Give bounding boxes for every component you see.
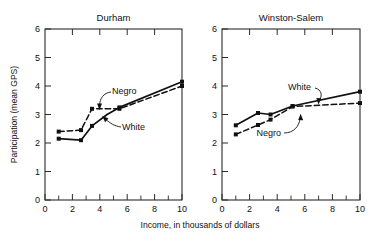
data-point: [117, 105, 121, 109]
two-panel-line-chart: Durham 0 1 2 3 4 5 6: [0, 0, 385, 245]
x-ticklabel: 0: [219, 204, 224, 214]
y-ticks-durham: [45, 29, 51, 200]
data-point: [79, 138, 83, 142]
data-point: [180, 84, 184, 88]
x-ticklabel: 2: [70, 204, 75, 214]
data-point: [234, 123, 238, 127]
y-ticklabel: 3: [212, 110, 217, 120]
x-ticklabel: 4: [275, 204, 280, 214]
data-point: [57, 130, 61, 134]
x-ticklabels-winston-salem: 0 2 4 6 8 10: [219, 204, 365, 214]
x-ticklabel: 2: [247, 204, 252, 214]
y-ticklabel: 5: [35, 53, 40, 63]
series-label-white: White: [288, 82, 311, 92]
data-point: [57, 137, 61, 141]
series-label-negro: Negro: [256, 128, 281, 138]
panel-title-winston-salem: Winston-Salem: [259, 12, 323, 23]
y-ticklabel: 2: [35, 138, 40, 148]
data-point: [180, 80, 184, 84]
x-ticklabel: 0: [42, 204, 47, 214]
x-ticklabel: 4: [97, 204, 102, 214]
x-axis-title: Income, in thousands of dollars: [141, 220, 260, 230]
y-ticklabel: 4: [212, 81, 217, 91]
y-ticklabel: 1: [35, 167, 40, 177]
x-ticks-winston-salem: [222, 29, 360, 200]
data-point: [79, 128, 83, 132]
y-ticklabels-durham: 0 1 2 3 4 5 6: [35, 24, 40, 205]
data-point: [358, 101, 362, 105]
data-point: [234, 132, 238, 136]
series-negro-winston-salem: [234, 101, 362, 136]
annotation-negro-durham: Negro: [97, 86, 136, 110]
panel-title-durham: Durham: [97, 12, 131, 23]
x-ticklabels-durham: 0 2 4 6 8 10: [42, 204, 187, 214]
data-point: [291, 105, 295, 109]
y-ticklabel: 0: [35, 195, 40, 205]
data-point: [256, 123, 260, 127]
y-ticklabels-winston-salem: 0 1 2 3 4 5 6: [212, 24, 217, 205]
data-point: [90, 124, 94, 128]
data-point: [269, 113, 273, 117]
annotation-white-durham: White: [102, 116, 145, 132]
data-point: [90, 107, 94, 111]
x-ticklabel: 6: [125, 204, 130, 214]
x-ticklabel: 8: [152, 204, 157, 214]
y-ticklabel: 6: [212, 24, 217, 34]
x-ticklabel: 10: [355, 204, 365, 214]
panel-durham: Durham 0 1 2 3 4 5 6: [9, 12, 187, 214]
y-ticklabel: 4: [35, 81, 40, 91]
series-label-white: White: [122, 122, 145, 132]
y-ticklabel: 3: [35, 110, 40, 120]
panel-winston-salem: Winston-Salem 0 1 2 3 4 5 6: [212, 12, 365, 214]
series-label-negro: Negro: [112, 86, 137, 96]
x-ticklabel: 8: [330, 204, 335, 214]
x-ticklabel: 10: [177, 204, 187, 214]
y-ticklabel: 2: [212, 138, 217, 148]
y-ticklabel: 5: [212, 53, 217, 63]
figure-container: Durham 0 1 2 3 4 5 6: [0, 0, 385, 245]
series-white-winston-salem: [234, 90, 362, 128]
data-point: [256, 111, 260, 115]
y-axis-title: Participation (mean GPS): [9, 66, 19, 164]
data-point: [269, 118, 273, 122]
y-ticklabel: 1: [212, 167, 217, 177]
plot-frame-durham: [45, 29, 182, 200]
y-ticklabel: 6: [35, 24, 40, 34]
annotation-negro-winston-salem: Negro: [256, 114, 303, 138]
y-ticks-winston-salem: [222, 29, 228, 200]
plot-frame-winston-salem: [222, 29, 360, 200]
y-ticklabel: 0: [212, 195, 217, 205]
x-ticklabel: 6: [302, 204, 307, 214]
data-point: [358, 90, 362, 94]
x-ticks-durham: [45, 29, 182, 200]
